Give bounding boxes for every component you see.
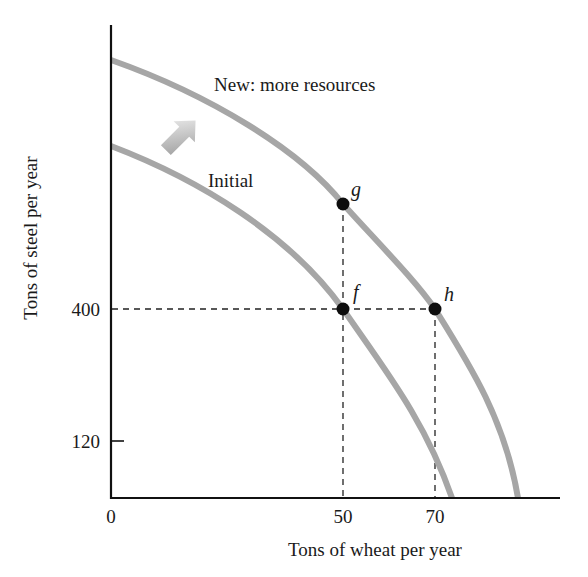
point-label-g: g [351, 178, 361, 201]
point-label-f: f [353, 281, 361, 304]
point-label-h: h [444, 283, 454, 305]
x-tick-label-0: 0 [106, 506, 116, 527]
point-h [429, 303, 442, 316]
axes [110, 25, 560, 499]
curve-initial [111, 146, 452, 498]
shift-arrow-icon [155, 110, 206, 161]
x-tick-label-50: 50 [334, 506, 353, 527]
x-axis-title: Tons of wheat per year [288, 539, 462, 560]
point-f [337, 303, 350, 316]
curve-label-initial: Initial [208, 170, 253, 191]
y-axis-title: Tons of steel per year [20, 156, 41, 320]
point-g [337, 198, 350, 211]
curve-new [111, 60, 518, 498]
ppf-chart: g f h New: more resources Initial 400 12… [0, 0, 588, 577]
curve-label-new: New: more resources [214, 74, 375, 95]
x-tick-label-70: 70 [426, 506, 445, 527]
y-tick-label-400: 400 [72, 299, 101, 320]
y-tick-label-120: 120 [72, 431, 101, 452]
